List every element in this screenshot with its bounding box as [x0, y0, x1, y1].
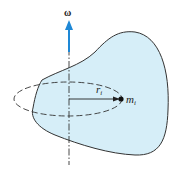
mass-label: mi — [126, 94, 136, 107]
radius-label: ri — [96, 84, 102, 97]
mass-particle — [118, 96, 123, 101]
radius-label-subscript: i — [100, 89, 102, 97]
omega-label: ω — [64, 8, 71, 18]
angular-velocity-arrowhead-icon — [65, 20, 73, 30]
rigid-body-rotation-diagram: ω ri mi — [0, 0, 180, 171]
mass-label-subscript: i — [134, 99, 136, 107]
mass-label-main: m — [126, 93, 134, 105]
diagram-svg — [0, 0, 180, 171]
